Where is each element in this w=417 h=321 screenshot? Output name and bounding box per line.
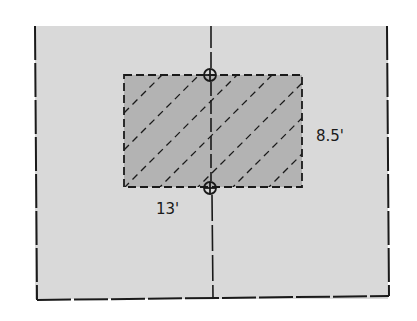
footprint-area	[124, 75, 302, 187]
bottom-marker-icon	[204, 182, 216, 194]
height-dimension-label: 8.5'	[316, 127, 344, 145]
width-dimension-label: 13'	[156, 200, 179, 218]
site-plan-diagram: 8.5' 13'	[0, 0, 417, 321]
top-marker-icon	[204, 69, 216, 81]
